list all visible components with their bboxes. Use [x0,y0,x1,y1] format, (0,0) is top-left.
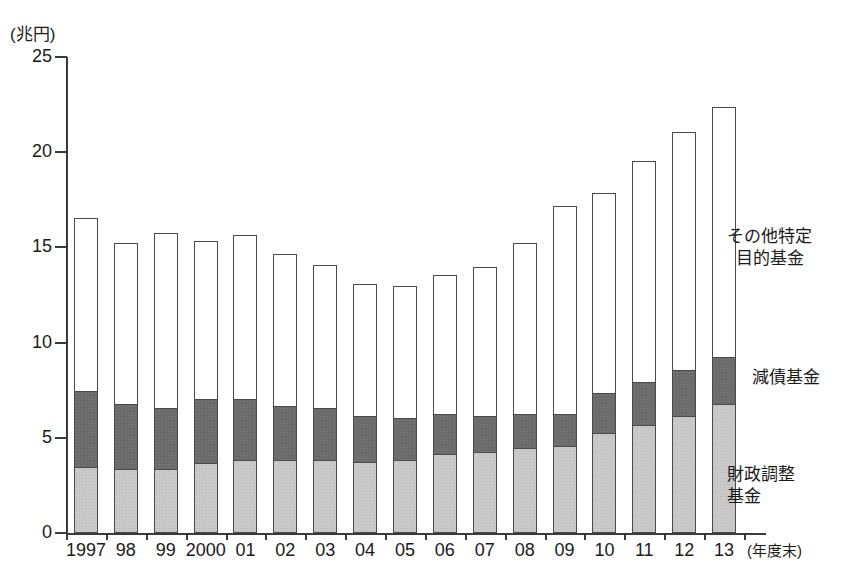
legend-fiscal-line2: 基金 [727,486,795,508]
bar-segment-fiscal-adjustment-fund [154,469,178,533]
bar-segment-debt-redemption-fund [194,399,218,465]
bar-segment-fiscal-adjustment-fund [513,448,537,533]
x-axis-tick-label-02: 02 [265,540,305,560]
x-axis-tick-6 [305,533,307,540]
bar-segment-fiscal-adjustment-fund [433,454,457,533]
legend-fiscal-line1: 財政調整 [727,464,795,486]
bar-segment-debt-redemption-fund [393,418,417,461]
bar-segment-other-special-purpose-funds [74,218,98,392]
bar-segment-fiscal-adjustment-fund [473,452,497,533]
bar-group-04 [353,57,377,533]
x-axis-tick-0 [66,533,68,540]
bar-segment-debt-redemption-fund [513,414,537,449]
x-axis-tick-label-01: 01 [226,540,266,560]
bar-segment-debt-redemption-fund [632,382,656,427]
bar-segment-fiscal-adjustment-fund [194,463,218,533]
x-axis-tick-label-05: 05 [385,540,425,560]
bar-segment-other-special-purpose-funds [632,161,656,383]
x-axis-line [66,533,766,535]
x-axis-tick-16 [704,533,706,540]
x-axis-unit-label: (年度末) [747,541,802,561]
y-axis-tick-label-15: 15 [4,237,52,255]
bar-segment-debt-redemption-fund [712,357,736,406]
x-axis-tick-label-03: 03 [305,540,345,560]
y-axis-tick-label-0: 0 [4,523,52,541]
x-axis-tick-label-2000: 2000 [186,540,226,560]
bar-segment-debt-redemption-fund [233,399,257,461]
bar-segment-other-special-purpose-funds [592,193,616,394]
x-axis-tick-4 [226,533,228,540]
bar-group-02 [273,57,297,533]
bar-segment-fiscal-adjustment-fund [74,467,98,533]
x-axis-tick-17 [744,533,746,540]
bar-group-01 [233,57,257,533]
bar-group-08 [513,57,537,533]
legend-label-fiscal-adjustment-fund: 財政調整 基金 [727,464,795,508]
bar-segment-debt-redemption-fund [592,393,616,434]
x-axis-tick-10 [465,533,467,540]
y-axis-tick-labels: 0510152025 [0,0,52,565]
x-axis-tick-label-06: 06 [425,540,465,560]
bar-group-09 [553,57,577,533]
bar-segment-debt-redemption-fund [273,406,297,460]
x-axis-tick-13 [584,533,586,540]
x-axis-tick-label-99: 99 [146,540,186,560]
bar-segment-debt-redemption-fund [313,408,337,460]
bar-segment-fiscal-adjustment-fund [233,460,257,533]
x-axis-tick-11 [505,533,507,540]
bar-segment-fiscal-adjustment-fund [313,460,337,533]
legend-label-other-special-purpose-funds: その他特定 目的基金 [727,226,812,270]
bar-segment-fiscal-adjustment-fund [632,425,656,533]
bar-segment-other-special-purpose-funds [553,206,577,415]
bar-group-10 [592,57,616,533]
bar-segment-other-special-purpose-funds [313,265,337,409]
bar-segment-other-special-purpose-funds [273,254,297,407]
x-axis-tick-1 [106,533,108,540]
bar-segment-fiscal-adjustment-fund [672,416,696,533]
bar-segment-other-special-purpose-funds [154,233,178,409]
bar-segment-fiscal-adjustment-fund [353,462,377,533]
bar-group-2000 [194,57,218,533]
bar-segment-other-special-purpose-funds [433,275,457,415]
x-axis-tick-9 [425,533,427,540]
x-axis-tick-2 [146,533,148,540]
bar-segment-fiscal-adjustment-fund [273,460,297,533]
bar-group-03 [313,57,337,533]
x-axis-tick-label-08: 08 [505,540,545,560]
x-axis-tick-label-09: 09 [545,540,585,560]
y-axis-tick-label-5: 5 [4,428,52,446]
bar-segment-debt-redemption-fund [433,414,457,455]
bar-segment-fiscal-adjustment-fund [592,433,616,533]
bar-segment-other-special-purpose-funds [473,267,497,417]
x-axis-tick-14 [624,533,626,540]
x-axis-tick-label-98: 98 [106,540,146,560]
bar-segment-other-special-purpose-funds [672,132,696,371]
x-axis-tick-15 [664,533,666,540]
bar-segment-fiscal-adjustment-fund [553,446,577,533]
bar-segment-debt-redemption-fund [473,416,497,453]
bar-group-06 [433,57,457,533]
x-axis-tick-label-13: 13 [704,540,744,560]
bar-group-05 [393,57,417,533]
x-axis-tick-label-04: 04 [345,540,385,560]
bar-segment-debt-redemption-fund [74,391,98,468]
legend-other-line2: 目的基金 [727,248,812,270]
bar-group-12 [672,57,696,533]
bar-segment-debt-redemption-fund [154,408,178,470]
bar-segment-debt-redemption-fund [114,404,138,470]
bar-segment-other-special-purpose-funds [194,241,218,400]
bar-segment-other-special-purpose-funds [114,243,138,406]
x-axis-tick-3 [186,533,188,540]
bar-segment-debt-redemption-fund [353,416,377,463]
x-axis-tick-5 [265,533,267,540]
bar-group-98 [114,57,138,533]
x-axis-tick-label-07: 07 [465,540,505,560]
bar-segment-other-special-purpose-funds [513,243,537,415]
bar-segment-debt-redemption-fund [672,370,696,417]
stacked-bar-chart: (兆円) 0510152025 199798992000010203040506… [0,0,844,565]
x-axis-tick-label-12: 12 [664,540,704,560]
x-axis-tick-label-11: 11 [624,540,664,560]
x-axis-tick-7 [345,533,347,540]
bar-group-99 [154,57,178,533]
x-axis-tick-label-10: 10 [584,540,624,560]
